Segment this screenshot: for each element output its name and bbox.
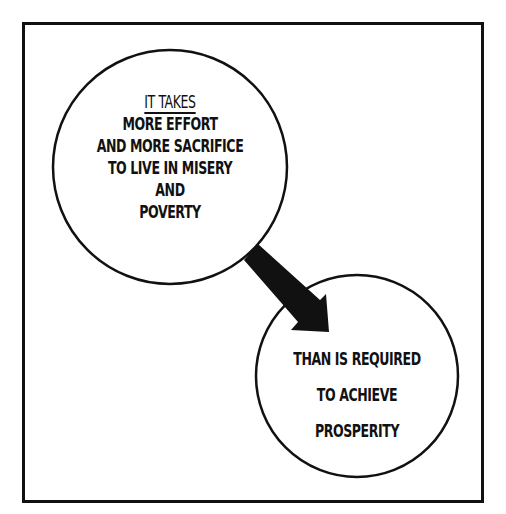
circle-1-text: IT TAKES MORE EFFORT AND MORE SACRIFICE …	[63, 91, 276, 223]
text-line: THAN IS REQUIRED	[267, 341, 447, 377]
text-line: POVERTY	[63, 201, 276, 223]
circle-2-text: THAN IS REQUIRED TO ACHIEVE PROSPERITY	[267, 341, 447, 449]
text-line: AND	[63, 179, 276, 201]
text-line: TO LIVE IN MISERY	[63, 157, 276, 179]
text-line: PROSPERITY	[267, 413, 447, 449]
text-line: TO ACHIEVE	[267, 377, 447, 413]
text-line: MORE EFFORT	[63, 113, 276, 135]
heading-it-takes: IT TAKES	[63, 91, 276, 113]
text-line: AND MORE SACRIFICE	[63, 135, 276, 157]
